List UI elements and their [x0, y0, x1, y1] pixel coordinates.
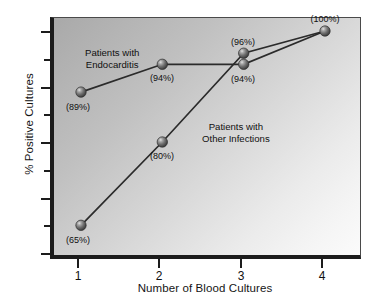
x-tick-2	[158, 259, 160, 268]
series-label-other-infections: Patients with Other Infections	[202, 121, 270, 144]
y-tick-65	[44, 225, 50, 227]
x-tick-label-3: 3	[226, 269, 256, 283]
point-label-shared-4: (100%)	[305, 14, 345, 24]
point-label-endocarditis-2: (94%)	[142, 73, 182, 83]
y-tick-100	[41, 31, 50, 33]
x-tick-4	[321, 259, 323, 268]
data-point-shared-4	[320, 26, 330, 36]
y-axis-title: % Positive Cultures	[23, 39, 35, 209]
data-point-endocarditis-2	[157, 59, 167, 69]
plot-area: Patients with Endocarditis Patients with…	[50, 17, 361, 259]
x-tick-label-2: 2	[144, 269, 174, 283]
data-point-other-1	[76, 220, 86, 230]
point-label-other-3: (96%)	[223, 37, 263, 47]
series-label-endocarditis: Patients with Endocarditis	[85, 47, 139, 70]
point-label-endocarditis-1: (89%)	[58, 102, 98, 112]
point-label-other-2: (80%)	[142, 151, 182, 161]
y-tick-85	[44, 114, 50, 116]
point-label-endocarditis-3: (94%)	[223, 74, 263, 84]
x-tick-1	[77, 259, 79, 268]
data-point-endocarditis-3	[239, 59, 249, 69]
data-point-other-2	[157, 137, 167, 147]
x-axis-title: Number of Blood Cultures	[50, 282, 360, 294]
chart-figure: % Positive Cultures 100 90 80 70 60	[0, 0, 373, 300]
y-tick-75	[44, 170, 50, 172]
data-point-endocarditis-1	[76, 87, 86, 97]
y-tick-90	[41, 87, 50, 89]
data-point-other-3	[239, 48, 249, 58]
x-tick-label-4: 4	[307, 269, 337, 283]
y-tick-60	[41, 253, 50, 255]
y-tick-95	[44, 59, 50, 61]
x-tick-label-1: 1	[63, 269, 93, 283]
x-tick-3	[240, 259, 242, 268]
point-label-other-1: (65%)	[58, 235, 98, 245]
y-tick-80	[41, 142, 50, 144]
y-tick-70	[41, 198, 50, 200]
